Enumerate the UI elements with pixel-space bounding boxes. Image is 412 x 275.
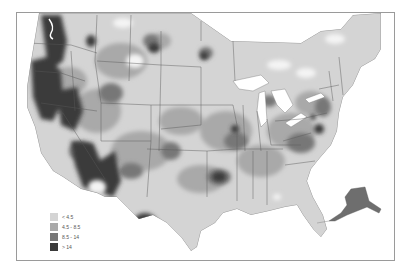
legend-label: 4.5 - 8.5 (62, 223, 80, 231)
alaska-inset (317, 187, 381, 223)
legend-swatch-class-3 (50, 233, 58, 241)
legend-swatch-class-2 (50, 223, 58, 231)
legend-label: < 4.5 (62, 213, 73, 221)
map-legend: < 4.5 4.5 - 8.5 8.5 - 14 > 14 (50, 212, 80, 252)
legend-item: > 14 (50, 242, 80, 251)
legend-item: 4.5 - 8.5 (50, 222, 80, 231)
legend-item: 8.5 - 14 (50, 232, 80, 241)
legend-label: 8.5 - 14 (62, 233, 79, 241)
legend-label: > 14 (62, 243, 72, 251)
legend-swatch-class-1 (50, 213, 58, 221)
legend-swatch-class-4 (50, 243, 58, 251)
map-frame: < 4.5 4.5 - 8.5 8.5 - 14 > 14 (16, 12, 395, 261)
legend-item: < 4.5 (50, 212, 80, 221)
